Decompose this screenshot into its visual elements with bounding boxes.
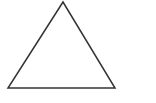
- triangle-shape: [8, 2, 115, 88]
- diagram-canvas: [0, 0, 156, 103]
